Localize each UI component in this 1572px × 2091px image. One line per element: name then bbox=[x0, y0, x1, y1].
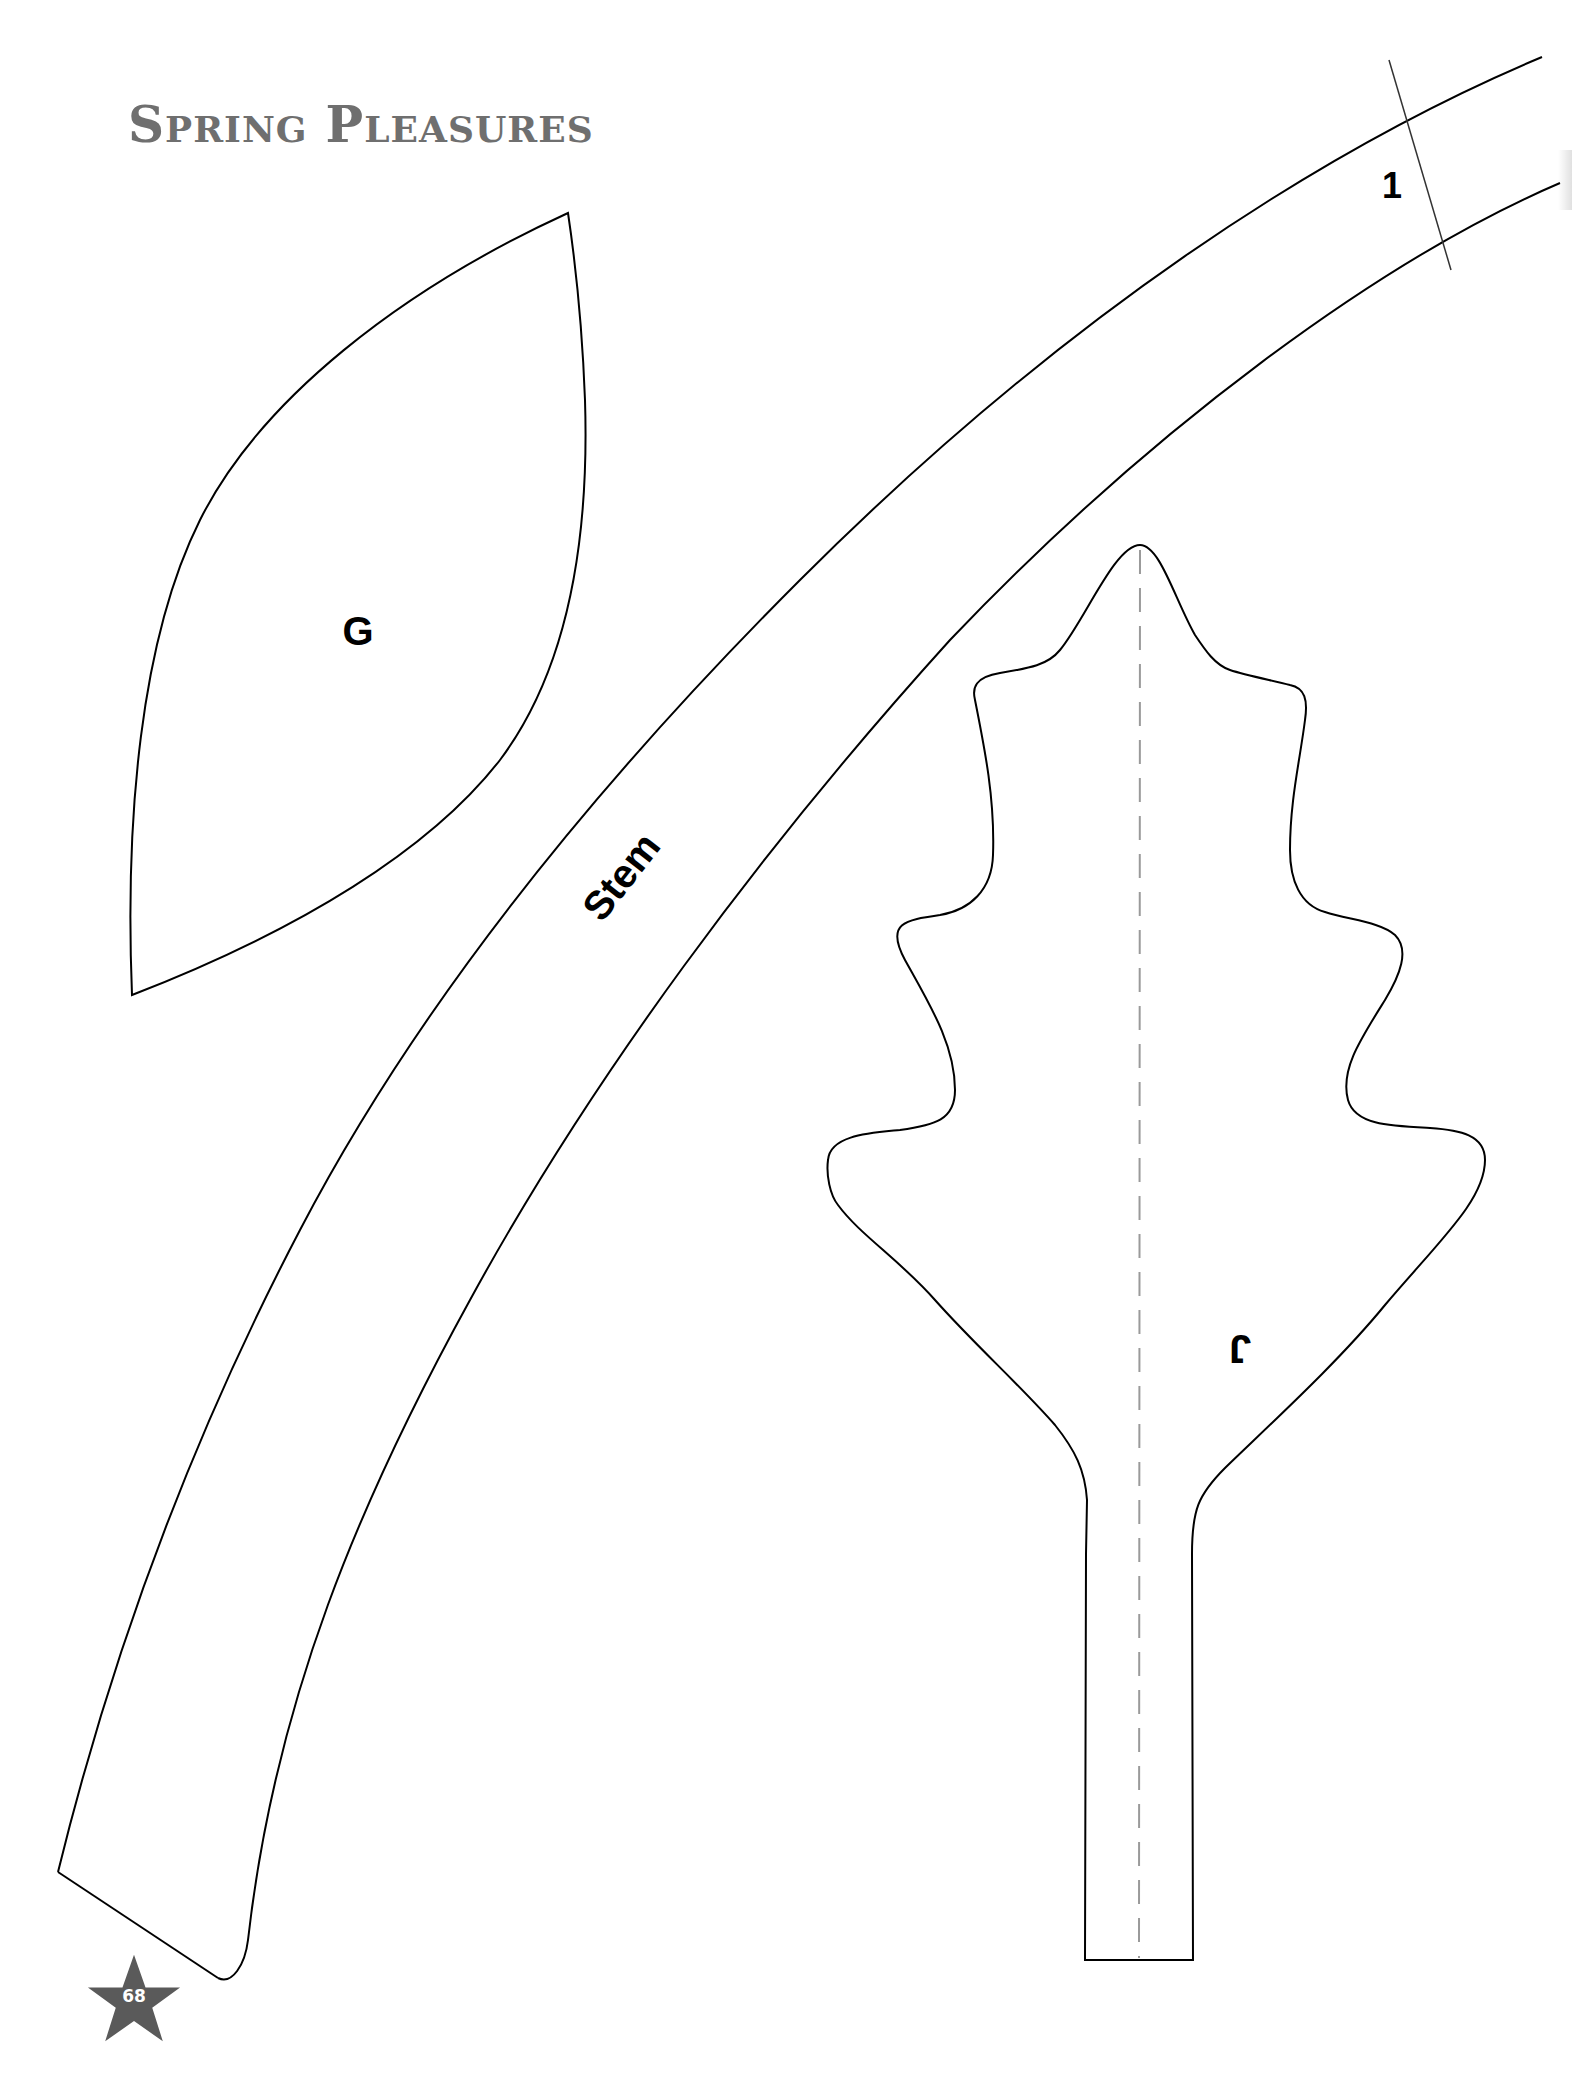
petal-g-outline bbox=[130, 213, 585, 995]
stem-outline-lower bbox=[218, 183, 1560, 1979]
stem-join-label: 1 bbox=[1382, 165, 1402, 206]
leaf-j-contour bbox=[797, 1235, 1486, 1959]
leaf-fold-line bbox=[1139, 550, 1140, 1958]
page-edge-shadow bbox=[1558, 150, 1572, 210]
pattern-page: SPRINGPLEASURES G 1 Stem J 68 bbox=[0, 0, 1572, 2091]
piece-label-j: J bbox=[1229, 1327, 1251, 1371]
pattern-piece-g: G bbox=[130, 213, 585, 995]
piece-label-g: G bbox=[342, 609, 373, 653]
piece-label-stem: Stem bbox=[574, 824, 669, 928]
pattern-piece-j: J bbox=[792, 545, 1486, 1960]
leaf-outline bbox=[827, 545, 1485, 1960]
pattern-drawing: G 1 Stem J bbox=[0, 0, 1572, 2091]
stem-outline-upper bbox=[58, 57, 1542, 1872]
leaf-j-outline bbox=[792, 1257, 1087, 1959]
pattern-piece-stem: 1 Stem bbox=[58, 57, 1560, 1979]
page-number: 68 bbox=[86, 1986, 182, 2006]
